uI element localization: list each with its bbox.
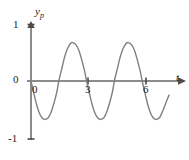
x-axis-origin-label: 0 — [32, 84, 38, 95]
y-axis-tick-label-0: 0 — [13, 74, 19, 85]
x-axis-tick-label-6: 6 — [143, 84, 149, 95]
figure-container: 1 0 -1 0 3 6 yp t — [0, 0, 189, 160]
y-axis-tick-label-minus-1: -1 — [8, 133, 17, 144]
x-axis-arrowhead — [178, 77, 186, 85]
oscillation-chart — [0, 0, 189, 160]
y-axis-tick-label-1: 1 — [13, 19, 19, 30]
y-axis-title-subscript: p — [40, 11, 44, 20]
x-axis-title: t — [176, 72, 179, 83]
y-axis-title: yp — [35, 6, 44, 20]
x-axis-tick-label-3: 3 — [85, 84, 91, 95]
